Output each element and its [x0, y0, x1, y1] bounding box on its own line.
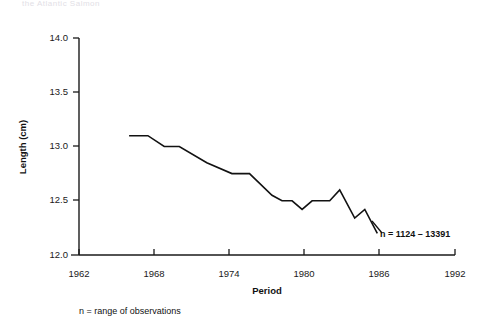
- x-tick-label-1968: 1968: [143, 268, 164, 279]
- y-tick-label-14-0: 14.0: [50, 32, 69, 43]
- x-tick-label-1986: 1986: [368, 268, 389, 279]
- x-axis-ticks: [79, 249, 455, 255]
- y-tick-label-12-0: 12.0: [50, 249, 69, 260]
- chart-svg: 14.0 13.5 13.0 12.5 12.0 1962 1968 1974 …: [0, 0, 479, 329]
- x-tick-label-1980: 1980: [293, 268, 314, 279]
- y-axis-ticks: [71, 38, 79, 255]
- x-tick-label-1974: 1974: [218, 268, 239, 279]
- chart-footnote: n = range of observations: [79, 306, 181, 316]
- x-tick-label-1962: 1962: [68, 268, 89, 279]
- x-tick-label-1992: 1992: [444, 268, 465, 279]
- y-axis-title: Length (cm): [17, 120, 28, 174]
- chart-figure: 14.0 13.5 13.0 12.5 12.0 1962 1968 1974 …: [0, 0, 479, 329]
- y-tick-label-13-5: 13.5: [50, 86, 69, 97]
- sample-size-annotation: n = 1124 – 13391: [380, 229, 450, 239]
- y-tick-label-13-0: 13.0: [50, 140, 69, 151]
- y-tick-label-12-5: 12.5: [50, 194, 69, 205]
- data-series-line: [129, 136, 377, 234]
- x-axis-title: Period: [252, 285, 282, 296]
